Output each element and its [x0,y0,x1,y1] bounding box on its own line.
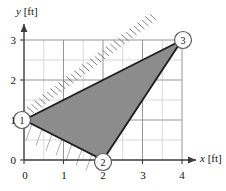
y-axis-label: y [ft] [16,6,38,17]
x-axis-arrow [188,157,196,164]
node-label-3: 3 [177,36,189,46]
plot-canvas [0,0,226,191]
y-axis-label-unit: [ft] [24,5,38,17]
y-tick-label-2: 2 [6,75,16,86]
x-tick-label-3: 3 [138,170,148,181]
y-tick-label-0: 0 [6,155,16,166]
y-tick-label-3: 3 [6,35,16,46]
node-label-1: 1 [16,116,28,126]
x-axis-label-unit: [ft] [208,152,222,164]
x-tick-label-2: 2 [98,170,108,181]
figure-container: 1 2 3 0 1 2 3 4 0 1 2 3 y [ft] x [ft] [0,0,226,191]
x-tick-label-4: 4 [177,170,187,181]
y-tick-label-1: 1 [6,115,16,126]
y-axis-arrow [21,24,28,32]
x-tick-label-0: 0 [20,170,30,181]
x-tick-label-1: 1 [59,170,69,181]
x-axis-label: x [ft] [200,153,222,164]
node-label-2: 2 [97,158,109,168]
